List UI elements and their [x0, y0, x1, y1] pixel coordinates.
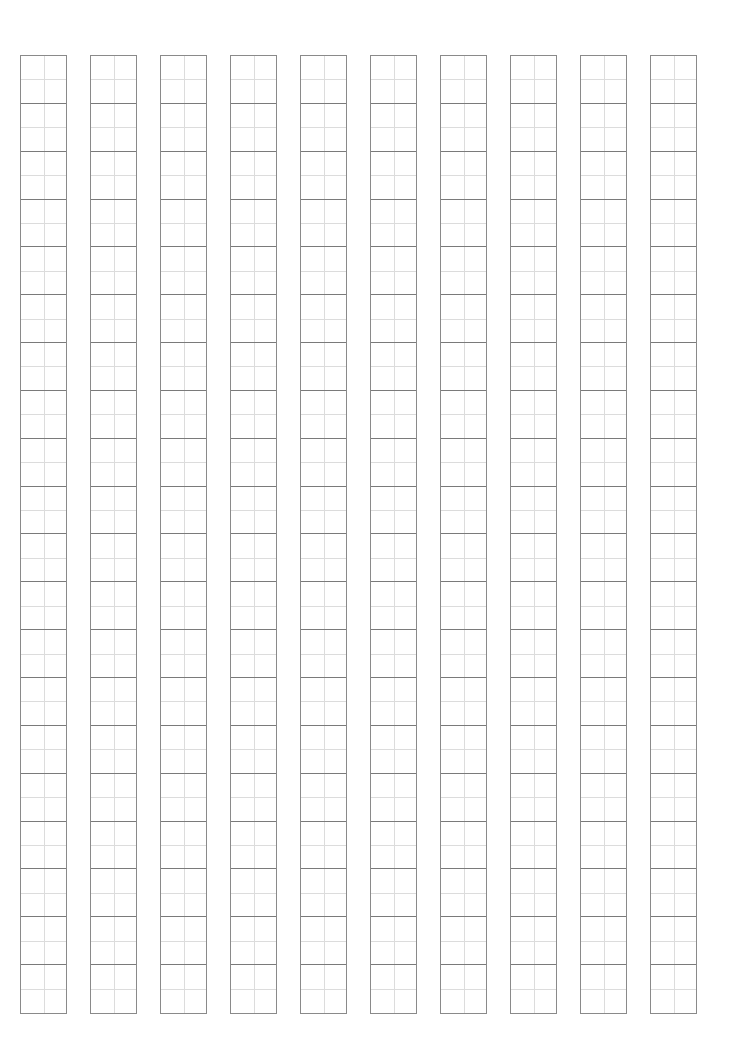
grid-cell: [21, 152, 66, 200]
grid-cell: [161, 104, 206, 152]
horizontal-guide-line: [91, 606, 136, 607]
horizontal-guide-line: [21, 893, 66, 894]
horizontal-guide-line: [651, 701, 696, 702]
grid-cell: [21, 247, 66, 295]
horizontal-guide-line: [581, 701, 626, 702]
grid-cell: [581, 439, 626, 487]
grid-cell: [371, 295, 416, 343]
horizontal-guide-line: [581, 462, 626, 463]
grid-cell: [301, 822, 346, 870]
grid-cell: [231, 822, 276, 870]
grid-cell: [371, 726, 416, 774]
grid-cell: [21, 822, 66, 870]
grid-cell: [651, 343, 696, 391]
horizontal-guide-line: [91, 749, 136, 750]
horizontal-guide-line: [441, 271, 486, 272]
horizontal-guide-line: [441, 606, 486, 607]
horizontal-guide-line: [91, 175, 136, 176]
grid-cell: [231, 487, 276, 535]
grid-cell: [21, 343, 66, 391]
grid-cell: [91, 869, 136, 917]
horizontal-guide-line: [441, 462, 486, 463]
grid-cell: [581, 200, 626, 248]
horizontal-guide-line: [231, 462, 276, 463]
horizontal-guide-line: [301, 558, 346, 559]
horizontal-guide-line: [161, 989, 206, 990]
horizontal-guide-line: [21, 558, 66, 559]
horizontal-guide-line: [371, 414, 416, 415]
horizontal-guide-line: [21, 941, 66, 942]
horizontal-guide-line: [231, 845, 276, 846]
grid-cell: [651, 678, 696, 726]
horizontal-guide-line: [441, 510, 486, 511]
horizontal-guide-line: [371, 989, 416, 990]
grid-cell: [21, 869, 66, 917]
grid-cell: [581, 343, 626, 391]
horizontal-guide-line: [21, 797, 66, 798]
horizontal-guide-line: [301, 223, 346, 224]
horizontal-guide-line: [371, 749, 416, 750]
grid-cell: [301, 104, 346, 152]
grid-cell: [511, 200, 556, 248]
horizontal-guide-line: [371, 845, 416, 846]
grid-cell: [91, 774, 136, 822]
horizontal-guide-line: [91, 893, 136, 894]
horizontal-guide-line: [21, 510, 66, 511]
grid-cell: [231, 678, 276, 726]
grid-cell: [581, 247, 626, 295]
grid-cell: [21, 917, 66, 965]
grid-cell: [161, 822, 206, 870]
horizontal-guide-line: [651, 319, 696, 320]
grid-cell: [301, 439, 346, 487]
horizontal-guide-line: [91, 462, 136, 463]
horizontal-guide-line: [301, 941, 346, 942]
horizontal-guide-line: [511, 989, 556, 990]
grid-cell: [651, 247, 696, 295]
grid-cell: [511, 726, 556, 774]
grid-cell: [511, 822, 556, 870]
grid-cell: [161, 56, 206, 104]
grid-cell: [91, 582, 136, 630]
horizontal-guide-line: [161, 701, 206, 702]
horizontal-guide-line: [581, 797, 626, 798]
grid-cell: [21, 630, 66, 678]
grid-cell: [91, 152, 136, 200]
horizontal-guide-line: [511, 414, 556, 415]
horizontal-guide-line: [91, 127, 136, 128]
grid-cell: [441, 487, 486, 535]
grid-cell: [301, 534, 346, 582]
grid-cell: [581, 869, 626, 917]
grid-cell: [231, 343, 276, 391]
horizontal-guide-line: [371, 175, 416, 176]
horizontal-guide-line: [651, 845, 696, 846]
grid-cell: [161, 487, 206, 535]
grid-cell: [581, 56, 626, 104]
horizontal-guide-line: [231, 79, 276, 80]
horizontal-guide-line: [21, 414, 66, 415]
horizontal-guide-line: [231, 510, 276, 511]
horizontal-guide-line: [231, 414, 276, 415]
horizontal-guide-line: [511, 558, 556, 559]
horizontal-guide-line: [161, 127, 206, 128]
grid-cell: [441, 200, 486, 248]
grid-cell: [511, 295, 556, 343]
horizontal-guide-line: [231, 366, 276, 367]
horizontal-guide-line: [441, 366, 486, 367]
grid-cell: [511, 391, 556, 439]
grid-cell: [441, 869, 486, 917]
horizontal-guide-line: [581, 510, 626, 511]
horizontal-guide-line: [371, 510, 416, 511]
grid-cell: [301, 247, 346, 295]
grid-cell: [511, 582, 556, 630]
horizontal-guide-line: [91, 989, 136, 990]
grid-cell: [91, 343, 136, 391]
grid-cell: [91, 247, 136, 295]
grid-cell: [231, 56, 276, 104]
horizontal-guide-line: [511, 749, 556, 750]
grid-cell: [301, 678, 346, 726]
grid-cell: [21, 582, 66, 630]
horizontal-guide-line: [441, 223, 486, 224]
grid-cell: [581, 391, 626, 439]
grid-cell: [231, 152, 276, 200]
horizontal-guide-line: [371, 271, 416, 272]
